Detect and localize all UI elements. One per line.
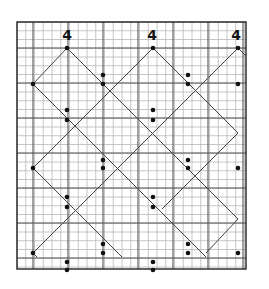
vertex-dot xyxy=(101,242,106,247)
vertex-dot xyxy=(65,118,70,123)
vertex-dot xyxy=(186,166,191,171)
vertex-dot xyxy=(101,158,106,163)
vertex-dot xyxy=(151,46,156,51)
vertex-dot xyxy=(186,82,191,87)
diagonal-line xyxy=(206,219,238,253)
vertex-dot xyxy=(151,195,156,200)
vertex-dot xyxy=(65,205,70,210)
vertex-dot xyxy=(151,260,156,265)
vertex-dot xyxy=(101,82,106,87)
vertex-dot xyxy=(186,251,191,256)
vertex-dot xyxy=(186,158,191,163)
column-label: 4 xyxy=(62,27,72,43)
vertex-dot xyxy=(151,205,156,210)
vertex-dot xyxy=(31,166,36,171)
vertex-dot xyxy=(236,46,241,51)
vertex-dot xyxy=(151,108,156,113)
vertex-dot xyxy=(151,268,156,273)
vertex-dot xyxy=(65,195,70,200)
vertex-dot xyxy=(65,46,70,51)
vertex-dot xyxy=(186,73,191,78)
vertex-dot xyxy=(236,166,241,171)
vertex-dot xyxy=(31,251,36,256)
grid-diagram: 444 xyxy=(0,0,269,289)
diagonal-line xyxy=(33,168,122,257)
column-label: 4 xyxy=(147,27,157,43)
diagonal-line xyxy=(33,48,238,253)
vertex-dot xyxy=(65,108,70,113)
vertex-dot xyxy=(65,268,70,273)
column-label: 4 xyxy=(231,27,241,43)
vertex-dot xyxy=(236,251,241,256)
vertex-dot xyxy=(101,166,106,171)
vertex-dot xyxy=(151,118,156,123)
vertex-dot xyxy=(31,82,36,87)
vertex-dot xyxy=(236,82,241,87)
vertex-dot xyxy=(101,73,106,78)
vertex-dot xyxy=(186,242,191,247)
vertex-dot xyxy=(65,260,70,265)
vertex-dot xyxy=(101,251,106,256)
